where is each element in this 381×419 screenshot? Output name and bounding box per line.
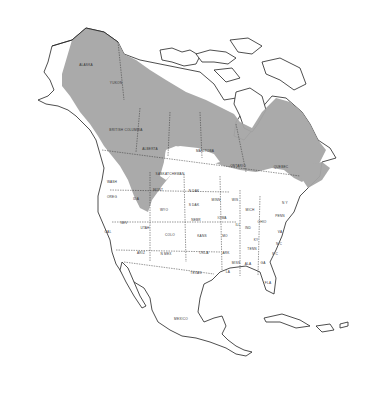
label-cal: CAL — [105, 230, 112, 234]
label-ida: IDA — [133, 197, 139, 201]
label-mexico: MEXICO — [174, 317, 188, 321]
label-ga: GA — [260, 261, 265, 265]
label-iowa: IOWA — [217, 216, 226, 220]
label-texas: TEXAS — [190, 271, 201, 275]
label-va: VA — [278, 230, 282, 234]
label-wyo: WYO — [160, 208, 168, 212]
label-minn: MINN — [212, 198, 221, 202]
label-saskatchewan: SASKATCHEWAN — [156, 172, 185, 176]
label-oreg: OREG — [107, 195, 117, 199]
label-yukon: YUKON — [110, 81, 122, 85]
label-sc: S C — [272, 252, 278, 256]
label-ind: IND — [245, 226, 251, 230]
label-nc: N C — [276, 242, 282, 246]
label-ariz: ARIZ — [137, 251, 145, 255]
label-utah: UTAH — [140, 226, 149, 230]
label-ohio: OHIO — [258, 220, 267, 224]
label-wis: WIS — [232, 198, 239, 202]
label-la: LA — [226, 270, 230, 274]
label-nev: NEV — [120, 221, 127, 225]
label-mich: MICH — [246, 208, 255, 212]
range-map — [0, 0, 381, 419]
label-ontario: ONTARIO — [230, 164, 246, 168]
label-quebec: QUEBEC — [274, 165, 289, 169]
label-n-dak: N DAK — [189, 189, 200, 193]
label-alaska: ALASKA — [79, 63, 93, 67]
label-ala: ALA — [245, 262, 252, 266]
label-colo: COLO — [165, 233, 175, 237]
label-miss: MISS — [232, 261, 241, 265]
label-penn: PENN — [275, 214, 285, 218]
label-ark: ARK — [222, 251, 229, 255]
label-nebr: NEBR — [191, 218, 201, 222]
label-mo: MO — [222, 234, 228, 238]
label-tenn: TENN — [247, 247, 256, 251]
label-manitoba: MANITOBA — [196, 149, 214, 153]
label-mont: MONT — [153, 188, 163, 192]
label-alberta: ALBERTA — [142, 147, 158, 151]
label-s-dak: S DAK — [189, 203, 200, 207]
label-kans: KANS — [197, 234, 206, 238]
label-fla: FLA — [265, 281, 271, 285]
label-n-mex: N MEX — [160, 252, 171, 256]
label-ky: KY — [254, 238, 259, 242]
label-okla: OKLA — [199, 251, 208, 255]
label-wash: WASH — [107, 180, 117, 184]
label-british-columbia: BRITISH COLUMBIA — [109, 128, 142, 132]
label-ill: ILL — [235, 223, 240, 227]
label-ny: N Y — [282, 201, 288, 205]
